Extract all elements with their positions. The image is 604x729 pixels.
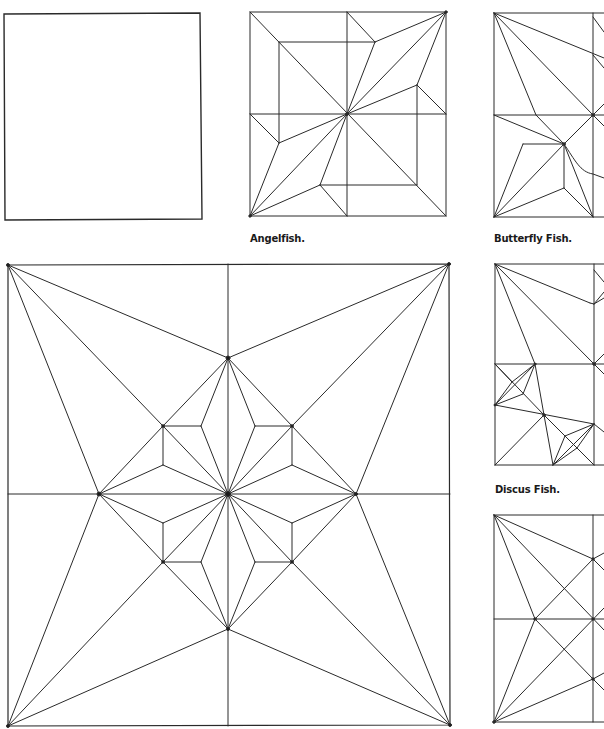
angelfish-diagram — [249, 11, 447, 217]
lower-right-diagram — [493, 515, 604, 723]
butterfly-fish-diagram — [494, 13, 604, 217]
large-crease-pattern-diagram — [7, 263, 452, 728]
caption-discus-fish: Discus Fish. — [495, 484, 560, 495]
caption-angelfish: Angelfish. — [250, 233, 305, 244]
blank-square-diagram — [4, 13, 202, 220]
caption-butterfly-fish: Butterfly Fish. — [494, 233, 572, 244]
discus-fish-diagram — [494, 264, 604, 465]
crease-pattern-figure — [0, 0, 604, 729]
